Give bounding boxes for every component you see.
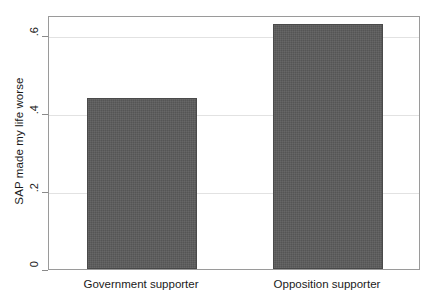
y-tick-label: .4 bbox=[28, 105, 40, 121]
x-tick-label: Government supporter bbox=[41, 278, 241, 290]
x-tick-label: Opposition supporter bbox=[227, 278, 427, 290]
bar bbox=[273, 24, 383, 269]
y-tick-mark bbox=[42, 270, 48, 271]
y-axis-tick-labels: .6.4.20 bbox=[24, 0, 42, 305]
y-tick-label: 0 bbox=[28, 261, 40, 277]
y-tick-label: .6 bbox=[28, 27, 40, 43]
bar-chart: SAP made my life worse .6.4.20 Governmen… bbox=[0, 0, 433, 305]
plot-area bbox=[48, 16, 420, 270]
y-tick-label: .2 bbox=[28, 183, 40, 199]
bar bbox=[87, 98, 197, 269]
